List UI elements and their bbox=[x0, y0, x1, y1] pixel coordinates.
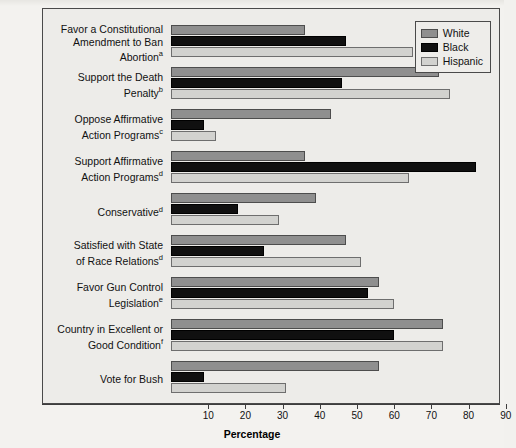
bar-white bbox=[171, 193, 316, 203]
bar-black bbox=[171, 120, 204, 130]
bar-black bbox=[171, 246, 264, 256]
x-axis-tick bbox=[506, 404, 507, 409]
x-axis-tick-label: 20 bbox=[240, 410, 251, 421]
bar-hispanic bbox=[171, 383, 286, 393]
plot-frame: Favor a ConstitutionalAmendment to BanAb… bbox=[42, 8, 500, 404]
category-label: Support AffirmativeAction Programsd bbox=[47, 155, 171, 183]
bar-hispanic bbox=[171, 215, 279, 225]
x-axis-tick-label: 10 bbox=[203, 410, 214, 421]
bar-hispanic bbox=[171, 89, 450, 99]
x-axis-tick-label: 40 bbox=[314, 410, 325, 421]
bar-white bbox=[171, 235, 346, 245]
x-axis-tick bbox=[431, 404, 432, 409]
category-row: Support AffirmativeAction Programsd bbox=[171, 148, 516, 190]
legend-label-hispanic: Hispanic bbox=[443, 55, 483, 67]
bar-white bbox=[171, 151, 305, 161]
x-axis-tick-label: 70 bbox=[426, 410, 437, 421]
bar-hispanic bbox=[171, 131, 216, 141]
bar-hispanic bbox=[171, 299, 394, 309]
x-axis-title: Percentage bbox=[0, 428, 504, 440]
x-axis-tick bbox=[283, 404, 284, 409]
bar-white bbox=[171, 361, 379, 371]
scan-edge bbox=[0, 0, 504, 6]
x-axis-tick bbox=[208, 404, 209, 409]
category-footnote-marker: d bbox=[159, 205, 163, 214]
legend-item-black: Black bbox=[421, 40, 483, 54]
bar-white bbox=[171, 277, 379, 287]
bar-black bbox=[171, 36, 346, 46]
x-axis-tick bbox=[394, 404, 395, 409]
bar-white bbox=[171, 25, 305, 35]
category-row: Vote for Bush bbox=[171, 358, 516, 400]
bar-hispanic bbox=[171, 257, 361, 267]
legend: White Black Hispanic bbox=[415, 21, 491, 73]
category-row: Oppose AffirmativeAction Programsc bbox=[171, 106, 516, 148]
category-footnote-marker: a bbox=[159, 49, 163, 58]
category-footnote-marker: c bbox=[159, 127, 163, 136]
category-label: Satisfied with Stateof Race Relationsd bbox=[47, 239, 171, 267]
bar-black bbox=[171, 330, 394, 340]
category-footnote-marker: d bbox=[159, 169, 163, 178]
x-axis-tick-label: 60 bbox=[389, 410, 400, 421]
bar-black bbox=[171, 162, 476, 172]
category-footnote-marker: f bbox=[161, 337, 163, 346]
x-axis-tick-label: 90 bbox=[500, 410, 511, 421]
category-footnote-marker: d bbox=[159, 253, 163, 262]
category-label: Support the DeathPenaltyb bbox=[47, 71, 171, 99]
category-row: Favor Gun ControlLegislatione bbox=[171, 274, 516, 316]
bar-black bbox=[171, 288, 368, 298]
bar-hispanic bbox=[171, 173, 409, 183]
category-footnote-marker: b bbox=[159, 85, 163, 94]
bar-hispanic bbox=[171, 47, 413, 57]
white-swatch-icon bbox=[421, 29, 438, 38]
legend-item-hispanic: Hispanic bbox=[421, 54, 483, 68]
category-label: Country in Excellent orGood Conditionf bbox=[47, 323, 171, 351]
bar-white bbox=[171, 67, 439, 77]
category-label: Favor a ConstitutionalAmendment to BanAb… bbox=[47, 23, 171, 63]
category-label: Conservatived bbox=[47, 204, 171, 219]
black-swatch-icon bbox=[421, 43, 438, 52]
bar-black bbox=[171, 204, 238, 214]
legend-item-white: White bbox=[421, 26, 483, 40]
bar-black bbox=[171, 372, 204, 382]
bar-white bbox=[171, 319, 443, 329]
bar-black bbox=[171, 78, 342, 88]
legend-label-white: White bbox=[443, 27, 470, 39]
x-axis-tick-label: 80 bbox=[463, 410, 474, 421]
bar-hispanic bbox=[171, 341, 443, 351]
x-axis-tick bbox=[320, 404, 321, 409]
category-row: Country in Excellent orGood Conditionf bbox=[171, 316, 516, 358]
x-axis-tick bbox=[245, 404, 246, 409]
x-axis-tick bbox=[357, 404, 358, 409]
category-row: Satisfied with Stateof Race Relationsd bbox=[171, 232, 516, 274]
category-label: Vote for Bush bbox=[47, 373, 171, 386]
hispanic-swatch-icon bbox=[421, 57, 438, 66]
category-footnote-marker: e bbox=[159, 295, 163, 304]
x-axis-tick-label: 50 bbox=[351, 410, 362, 421]
x-axis-tick bbox=[469, 404, 470, 409]
category-label: Favor Gun ControlLegislatione bbox=[47, 281, 171, 309]
category-label: Oppose AffirmativeAction Programsc bbox=[47, 113, 171, 141]
legend-label-black: Black bbox=[443, 41, 469, 53]
category-row: Conservatived bbox=[171, 190, 516, 232]
plot-area: Favor a ConstitutionalAmendment to BanAb… bbox=[171, 18, 516, 406]
bar-white bbox=[171, 109, 331, 119]
x-axis-tick-label: 30 bbox=[277, 410, 288, 421]
